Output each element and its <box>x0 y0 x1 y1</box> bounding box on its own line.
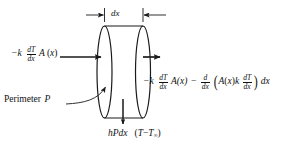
right-minus-k: −k <box>143 77 154 87</box>
left-area-symbol: A <box>39 49 45 59</box>
right-dT-dx-fraction-2: dT dx <box>242 74 252 90</box>
right-group-open-paren: ( <box>214 75 218 89</box>
dx-dimension-group <box>86 8 166 22</box>
perimeter-word: Perimeter <box>4 95 41 105</box>
fin-element-diagram: dx −k dT dx A ( x ) −k dT dx A(x) <box>0 0 297 149</box>
cylinder-left-face <box>97 26 112 118</box>
dx-dimension-label: dx <box>111 9 120 18</box>
convection-hPdx-term: hPdx <box>108 129 128 139</box>
left-close-paren: ) <box>54 49 57 59</box>
right-dx-term: dx <box>261 77 270 87</box>
right-conduction-label: −k dT dx A(x) − d dx ( A ( x ) k dT <box>143 74 270 90</box>
right-d-dx-fraction: d dx <box>201 74 210 90</box>
convection-loss-label: hPdx ( T − T ∞ ) <box>108 129 161 139</box>
left-minus-k: −k <box>11 49 22 59</box>
right-k-symbol: k <box>235 77 239 87</box>
right-minus-sign: − <box>191 77 196 87</box>
convection-infinity-subscript: ∞ <box>154 133 158 139</box>
convection-close-paren: ) <box>158 129 161 139</box>
right-group-close-paren: ) <box>254 75 258 89</box>
left-conduction-label: −k dT dx A ( x ) <box>11 46 57 62</box>
perimeter-label: Perimeter P <box>4 95 50 105</box>
right-dT-dx-fraction-1: dT dx <box>158 74 168 90</box>
perimeter-leader-arrow <box>66 87 106 104</box>
left-dT-dx-fraction: dT dx <box>26 46 36 62</box>
perimeter-symbol: P <box>44 95 50 105</box>
cylinder-right-face <box>136 26 151 118</box>
right-area-term-1: A(x) <box>171 77 187 87</box>
